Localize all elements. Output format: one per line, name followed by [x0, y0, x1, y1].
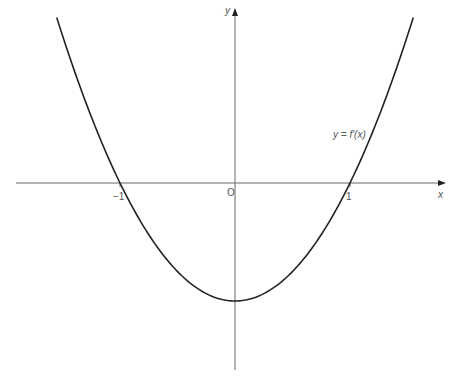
- x-axis-arrow-icon: [438, 180, 446, 186]
- derivative-graph: y x O −1 1 y = f'(x): [0, 0, 457, 378]
- y-axis-arrow-icon: [232, 8, 238, 16]
- curve-label: y = f'(x): [332, 129, 366, 140]
- y-axis-label: y: [224, 5, 231, 16]
- tick-label-pos1: 1: [346, 191, 352, 202]
- x-axis-label: x: [437, 189, 444, 200]
- tick-label-neg1: −1: [113, 191, 125, 202]
- origin-label: O: [227, 187, 235, 198]
